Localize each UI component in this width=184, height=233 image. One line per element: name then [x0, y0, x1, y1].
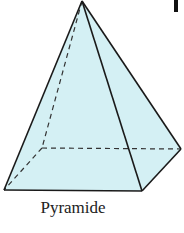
figure-caption: Pyramide — [0, 198, 146, 218]
pyramid-silhouette — [4, 1, 181, 191]
cropped-mark — [174, 0, 178, 12]
